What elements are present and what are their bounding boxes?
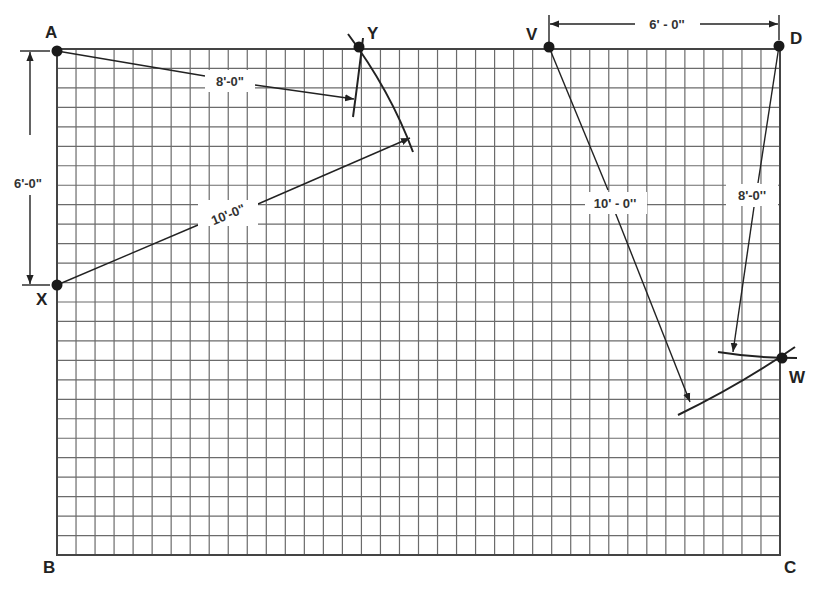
dimension-label-dw: 8'-0'' <box>738 188 766 203</box>
label-v: V <box>526 25 538 44</box>
dimension-label-vw: 10' - 0'' <box>594 196 637 211</box>
point-w <box>777 353 788 364</box>
point-d <box>774 41 785 52</box>
point-x <box>52 280 63 291</box>
layout-diagram: 6'-0" 8'-0" 10'-0" 6' - 0'' 10' - 0'' 8'… <box>0 0 825 589</box>
label-x: X <box>36 290 48 309</box>
point-y <box>354 42 365 53</box>
dimension-label-ax: 6'-0" <box>14 176 42 191</box>
points <box>52 41 788 364</box>
label-y: Y <box>367 24 379 43</box>
label-a: A <box>45 23 57 42</box>
grid-paper <box>57 49 780 555</box>
dimension-label-ay: 8'-0" <box>216 74 244 89</box>
label-b: B <box>43 558 55 577</box>
point-a <box>52 46 63 57</box>
label-d: D <box>790 29 802 48</box>
dimension-label-vd: 6' - 0'' <box>649 17 684 32</box>
point-v <box>544 42 555 53</box>
label-w: W <box>789 368 806 387</box>
label-c: C <box>784 558 796 577</box>
